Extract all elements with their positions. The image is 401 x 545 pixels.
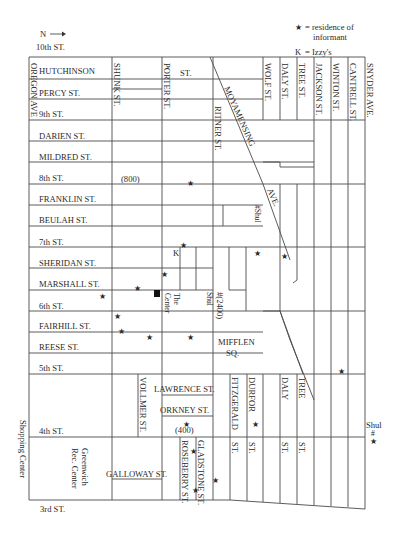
- informant-star-icon: ★: [252, 420, 259, 429]
- north-label: N: [40, 29, 47, 39]
- block-number-800: (800): [121, 174, 140, 184]
- street-label-10th: 10th ST.: [36, 42, 65, 52]
- street-label-cantrell: CANTRELL ST.: [348, 63, 358, 121]
- street-label-durfor-st: ST.: [247, 442, 257, 454]
- mifflen-square-label-2: SQ.: [226, 348, 239, 358]
- informant-star-icon: ★: [192, 486, 199, 495]
- street-label-tree-lower-st: ST.: [297, 442, 307, 454]
- legend-k-meaning: = Izzy's: [305, 47, 332, 57]
- street-label-fitzgerald-st: ST.: [230, 442, 240, 454]
- street-label-winton: WINTON ST.: [331, 63, 341, 111]
- legend: ★ = residence of informant K = Izzy's: [295, 22, 354, 57]
- legend-k-symbol: K: [295, 47, 302, 57]
- shul-moyamensing-label: #Shul: [253, 205, 262, 223]
- horizontal-street-labels: 10th ST. HUTCHINSON PERCY ST. 9th ST. DA…: [36, 42, 100, 514]
- moyamensing-labels: MOYAMENSING AVE.: [222, 85, 282, 208]
- street-label-daly-lower: DALY: [280, 377, 290, 400]
- street-label-roseberry: ROSEBERRY ST.: [180, 440, 190, 504]
- street-label-5th: 5th ST.: [39, 363, 64, 373]
- the-center-label-2: Center: [163, 293, 172, 314]
- street-label-jackson: JACKSON ST.: [314, 63, 324, 115]
- the-center-label-1: The: [172, 293, 181, 305]
- informant-star-icon: ★: [187, 333, 194, 342]
- informant-star-icon: ★: [183, 420, 190, 429]
- street-label-galloway: GALLOWAY ST.: [106, 469, 167, 479]
- street-label-gladstone: GLADSTONE ST.: [196, 440, 206, 505]
- street-label-orkney: ORKNEY ST.: [160, 405, 209, 415]
- street-label-fairhill: FAIRHILL ST.: [39, 321, 91, 331]
- street-label-lawrence: LAWRENCE ST.: [154, 384, 215, 394]
- street-label-percy: PERCY ST.: [39, 88, 80, 98]
- street-label-shunk: SHUNK ST.: [112, 63, 122, 106]
- informant-star-icon: ★: [370, 437, 377, 446]
- shul-2400-label: Shul: [205, 292, 214, 306]
- street-label-daly-lower-st: ST.: [280, 442, 290, 454]
- street-label-porter-st-suffix: ST.: [180, 68, 192, 78]
- street-label-4th: 4th ST.: [39, 426, 64, 436]
- informant-star-icon: ★: [99, 292, 106, 301]
- street-label-oregon: OREGON AVE: [29, 63, 39, 117]
- street-label-tree-lower: TREE: [297, 377, 307, 398]
- street-label-vollmer: VOLLMER ST.: [138, 377, 148, 432]
- street-label-ritner: RITNER ST.: [213, 106, 223, 151]
- informant-star-icon: ★: [212, 476, 219, 485]
- street-label-6th: 6th ST.: [39, 301, 64, 311]
- informant-star-icon: ★: [281, 252, 288, 261]
- street-label-durfor: DURFOR: [247, 377, 257, 412]
- informant-star-icon: ★: [114, 312, 121, 321]
- informant-star-icon: ★: [338, 367, 345, 376]
- informant-star-icon: ★: [134, 284, 141, 293]
- street-label-marshall: MARSHALL ST.: [39, 279, 100, 289]
- legend-star-line1: = residence of: [305, 22, 354, 32]
- street-label-darien: DARIEN ST.: [39, 131, 85, 141]
- street-label-fitzgerald: FITZGERALD: [230, 377, 240, 430]
- street-label-mildred: MILDRED ST.: [39, 152, 92, 162]
- informant-star-icon: ★: [118, 327, 125, 336]
- informant-star-icon: ★: [254, 249, 261, 258]
- informant-star-icon: ★: [161, 270, 168, 279]
- mifflen-square-label-1: MIFFLEN: [218, 337, 256, 347]
- street-label-reese: REESE ST.: [39, 342, 79, 352]
- street-label-7th: 7th ST.: [39, 237, 64, 247]
- street-label-3rd: 3rd ST.: [40, 504, 65, 514]
- legend-star-icon: ★: [295, 23, 302, 32]
- street-label-beulah: BEULAH ST.: [39, 215, 88, 225]
- street-label-9th: 9th ST.: [39, 109, 64, 119]
- legend-star-line2: informant: [313, 32, 348, 42]
- north-arrowhead-icon: [62, 32, 66, 37]
- informant-star-icon: ★: [180, 241, 187, 250]
- shopping-center-label: Shopping Center: [18, 420, 28, 478]
- street-label-sheridan: SHERIDAN ST.: [39, 258, 96, 268]
- street-label-tree: TREE ST.: [297, 63, 307, 98]
- street-label-porter: PORTER ST.: [162, 63, 172, 109]
- izzys-marker: K: [173, 248, 180, 258]
- the-center-square-icon: [154, 290, 160, 297]
- greenwich-label-1: Greenwich: [80, 448, 90, 486]
- street-label-snyder: SNYDER AVE.: [365, 63, 375, 118]
- street-label-8th: 8th ST.: [39, 173, 64, 183]
- neighborhood-map: ★ = residence of informant K = Izzy's N: [0, 0, 401, 545]
- north-indicator: N: [40, 29, 66, 39]
- informant-star-icon: ★: [146, 333, 153, 342]
- street-label-moyamensing: MOYAMENSING: [222, 85, 257, 148]
- street-label-hutchinson: HUTCHINSON: [39, 66, 96, 76]
- informant-star-icon: ★: [187, 179, 194, 188]
- informant-star-icon: ★: [190, 447, 197, 456]
- street-label-daly: DALY ST.: [280, 63, 290, 99]
- street-label-franklin: FRANKLIN ST.: [39, 194, 96, 204]
- block-number-2400: #(2400): [215, 292, 225, 319]
- street-label-wolf: WOLF ST.: [263, 63, 273, 101]
- greenwich-label-2: Rec. Center: [70, 448, 80, 489]
